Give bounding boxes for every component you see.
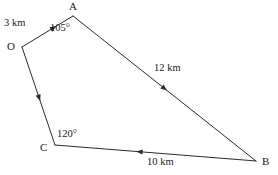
vertex-label-C: C (40, 142, 47, 153)
geometry-diagram: A O C B 3 km 12 km 10 km 105° 120° (0, 0, 278, 175)
length-label-CB: 10 km (147, 157, 174, 168)
length-label-OA: 3 km (4, 18, 25, 29)
angle-label-C: 120° (57, 129, 77, 140)
vertex-label-A: A (69, 1, 77, 12)
angle-label-A: 105° (50, 23, 70, 34)
vertex-label-B: B (262, 156, 269, 167)
arrow-OC (36, 94, 41, 101)
vertex-label-O: O (7, 41, 15, 52)
direction-arrows (36, 26, 167, 154)
arrow-AB (160, 84, 167, 90)
length-label-AB: 12 km (154, 63, 181, 74)
